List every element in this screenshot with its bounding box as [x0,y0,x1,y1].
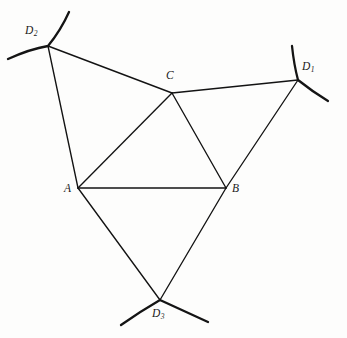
vertex-label-a: A [64,183,71,195]
vertex-label-b: B [232,183,239,195]
vertex-label-d3: D3 [152,308,164,320]
vertex-label-d2-text: D [25,24,34,36]
vertex-label-d2-subscript: 2 [34,29,38,38]
vertex-label-d2: D2 [25,25,37,37]
vertex-label-d1-text: D [302,60,311,72]
segment-ca [78,93,172,188]
vertex-label-c: C [166,70,174,82]
segment-c-d2 [48,46,172,93]
segment-c-d1 [172,80,298,93]
vertex-label-d3-text: D [152,307,161,319]
arc-through-d1 [292,46,328,101]
vertex-label-b-text: B [232,182,239,194]
segment-b-d3 [160,188,226,300]
vertex-label-c-text: C [166,69,174,81]
geometry-figure: A B C D1 D2 D3 [0,0,347,338]
vertex-label-d1: D1 [302,61,314,73]
vertex-label-d3-subscript: 3 [161,312,165,321]
vertex-label-a-text: A [64,182,71,194]
segment-a-d3 [78,188,160,300]
segment-a-d2 [48,46,78,188]
vertex-label-d1-subscript: 1 [311,65,315,74]
arc-through-d2 [8,12,69,59]
segment-b-d1 [226,80,298,188]
figure-canvas [0,0,347,338]
segment-bc [172,93,226,188]
